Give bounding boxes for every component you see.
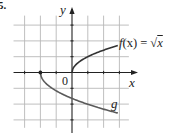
f-radicand: x <box>157 36 163 50</box>
f-curve-label: f(x) = √x <box>119 37 163 50</box>
problem-number: 5. <box>0 0 6 11</box>
graph-figure <box>0 0 170 135</box>
origin-label: 0 <box>62 75 68 87</box>
f-arg: (x) = √ <box>122 36 157 50</box>
g-start-point <box>39 71 43 75</box>
curve-f-sqrt-x <box>72 46 118 73</box>
g-curve-label: g <box>111 97 118 110</box>
curve-g <box>40 73 117 114</box>
x-axis-label: x <box>129 76 135 89</box>
y-axis-label: y <box>60 3 66 16</box>
